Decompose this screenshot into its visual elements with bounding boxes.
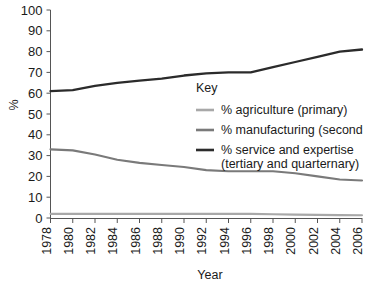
y-tick-label: 50 [28, 107, 42, 122]
legend-label-service-line2: (tertiary and quarternary) [221, 157, 359, 171]
x-tick-label: 2006 [351, 227, 365, 255]
y-tick-label: 100 [21, 3, 43, 18]
y-tick-label: 60 [28, 86, 42, 101]
y-tick-label: 0 [35, 211, 42, 226]
x-tick-label: 1996 [240, 227, 254, 255]
legend-label-service: % service and expertise [221, 143, 354, 157]
x-tick-label: 1992 [195, 227, 209, 255]
x-axis-ticks: 1978198019821984198619881990199219941996… [40, 218, 366, 255]
x-tick-label: 1998 [262, 227, 276, 255]
x-tick-label: 1988 [151, 227, 165, 255]
x-axis-title: Year [197, 268, 222, 282]
y-tick-label: 80 [28, 44, 42, 59]
line-chart: 0102030405060708090100 19781980198219841… [0, 0, 368, 285]
legend-title: Key [196, 81, 218, 95]
x-tick-label: 1990 [173, 227, 187, 255]
x-tick-label: 2002 [307, 227, 321, 255]
y-tick-label: 70 [28, 65, 42, 80]
legend: Key % agriculture (primary) % manufactur… [196, 81, 363, 171]
y-tick-label: 40 [28, 127, 42, 142]
x-tick-label: 1986 [129, 227, 143, 255]
x-tick-label: 2000 [284, 227, 298, 255]
x-tick-label: 2004 [329, 227, 343, 255]
y-tick-label: 10 [28, 190, 42, 205]
x-tick-label: 1984 [106, 227, 120, 255]
y-tick-label: 90 [28, 23, 42, 38]
y-tick-label: 30 [28, 148, 42, 163]
chart-canvas: 0102030405060708090100 19781980198219841… [0, 0, 368, 285]
series-line [51, 214, 363, 215]
y-tick-label: 20 [28, 169, 42, 184]
x-tick-label: 1982 [84, 227, 98, 255]
legend-label-agriculture: % agriculture (primary) [221, 103, 347, 117]
x-tick-label: 1980 [62, 227, 76, 255]
y-axis-ticks: 0102030405060708090100 [21, 3, 51, 226]
x-tick-label: 1994 [218, 227, 232, 255]
y-axis-title: % [7, 99, 21, 110]
x-tick-label: 1978 [40, 227, 54, 255]
legend-label-manufacturing: % manufacturing (second [221, 123, 363, 137]
